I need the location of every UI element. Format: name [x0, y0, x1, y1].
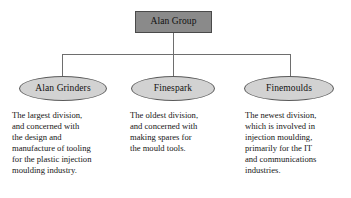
description-line: the design and [12, 132, 118, 143]
org-chart-diagram: Alan Group Alan Grinders Finespark Finem… [0, 0, 351, 198]
node-alan-group-label: Alan Group [150, 17, 196, 27]
description-line: for the plastic injection [12, 154, 118, 165]
node-alan-grinders[interactable]: Alan Grinders [19, 76, 107, 101]
description-line: manufacture of tooling [12, 143, 118, 154]
description-finespark: The oldest division,and concerned withma… [130, 110, 230, 154]
description-line: The oldest division, [130, 110, 230, 121]
connector-root-stem [173, 33, 174, 54]
description-line: The newest division, [245, 110, 345, 121]
description-line: injection moulding, [245, 132, 345, 143]
description-line: and concerned with [12, 121, 118, 132]
description-line: making spares for [130, 132, 230, 143]
description-line: moulding industry. [12, 165, 118, 176]
description-line: primarily for the IT [245, 143, 345, 154]
description-line: and communications [245, 154, 345, 165]
description-finemoulds: The newest division,which is involved in… [245, 110, 345, 175]
connector-horizontal-bus [62, 54, 291, 55]
node-finemoulds-label: Finemoulds [266, 84, 312, 94]
description-line: the mould tools. [130, 143, 230, 154]
node-finespark[interactable]: Finespark [131, 76, 215, 101]
description-line: The largest division, [12, 110, 118, 121]
description-line: which is involved in [245, 121, 345, 132]
description-line: industries. [245, 165, 345, 176]
description-line: and concerned with [130, 121, 230, 132]
node-alan-grinders-label: Alan Grinders [35, 84, 90, 94]
node-alan-group[interactable]: Alan Group [135, 11, 212, 33]
node-finespark-label: Finespark [154, 84, 192, 94]
description-alan-grinders: The largest division,and concerned witht… [12, 110, 118, 175]
node-finemoulds[interactable]: Finemoulds [244, 76, 334, 101]
